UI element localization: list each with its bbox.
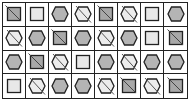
- hexagon-slash-icon: [74, 5, 92, 23]
- hexagon-icon: [5, 53, 23, 71]
- hexagon-icon: [167, 53, 185, 71]
- grid-cell[interactable]: [95, 74, 118, 98]
- grid-cell[interactable]: [95, 3, 118, 27]
- square-slash-icon: [51, 29, 69, 47]
- grid-cell[interactable]: [3, 51, 26, 75]
- grid-cell[interactable]: [164, 74, 187, 98]
- grid-cell[interactable]: [26, 51, 49, 75]
- hexagon-icon: [28, 29, 46, 47]
- hexagon-slash-icon: [120, 53, 138, 71]
- square-slash-icon: [167, 77, 185, 95]
- hexagon-icon: [74, 77, 92, 95]
- square-icon: [5, 77, 23, 95]
- grid-cell[interactable]: [118, 74, 141, 98]
- hexagon-icon: [143, 53, 161, 71]
- grid-cell[interactable]: [118, 3, 141, 27]
- grid-cell[interactable]: [3, 27, 26, 51]
- grid-cell[interactable]: [72, 51, 95, 75]
- grid-cell[interactable]: [118, 27, 141, 51]
- square-icon: [143, 29, 161, 47]
- hexagon-slash-icon: [51, 53, 69, 71]
- square-icon: [74, 53, 92, 71]
- hexagon-icon: [51, 77, 69, 95]
- hexagon-slash-icon: [97, 29, 115, 47]
- grid-cell[interactable]: [26, 27, 49, 51]
- hexagon-slash-icon: [143, 77, 161, 95]
- grid-cell[interactable]: [26, 3, 49, 27]
- hexagon-slash-icon: [120, 5, 138, 23]
- grid-cell[interactable]: [49, 27, 72, 51]
- grid-cell[interactable]: [164, 51, 187, 75]
- grid-cell[interactable]: [118, 51, 141, 75]
- grid-cell[interactable]: [72, 3, 95, 27]
- grid-cell[interactable]: [141, 27, 164, 51]
- square-slash-icon: [120, 77, 138, 95]
- hexagon-slash-icon: [5, 29, 23, 47]
- grid-cell[interactable]: [141, 51, 164, 75]
- hexagon-icon: [74, 29, 92, 47]
- grid-cell[interactable]: [49, 51, 72, 75]
- grid-cell[interactable]: [95, 27, 118, 51]
- hexagon-icon: [167, 5, 185, 23]
- grid-cell[interactable]: [72, 74, 95, 98]
- square-slash-icon: [97, 5, 115, 23]
- grid-cell[interactable]: [3, 3, 26, 27]
- grid-cell[interactable]: [49, 3, 72, 27]
- hexagon-icon: [97, 53, 115, 71]
- square-slash-icon: [5, 5, 23, 23]
- grid-cell[interactable]: [141, 74, 164, 98]
- grid-cell[interactable]: [95, 51, 118, 75]
- grid-cell[interactable]: [49, 74, 72, 98]
- hexagon-icon: [120, 29, 138, 47]
- hexagon-slash-icon: [97, 77, 115, 95]
- hexagon-slash-icon: [28, 77, 46, 95]
- grid-cell[interactable]: [141, 3, 164, 27]
- square-icon: [28, 5, 46, 23]
- grid-cell[interactable]: [164, 3, 187, 27]
- square-icon: [143, 5, 161, 23]
- square-slash-icon: [167, 29, 185, 47]
- grid-cell[interactable]: [26, 74, 49, 98]
- grid-cell[interactable]: [164, 27, 187, 51]
- hexagon-icon: [51, 5, 69, 23]
- grid-cell[interactable]: [72, 27, 95, 51]
- grid-cell[interactable]: [3, 74, 26, 98]
- shape-grid: [2, 2, 188, 99]
- square-slash-icon: [28, 53, 46, 71]
